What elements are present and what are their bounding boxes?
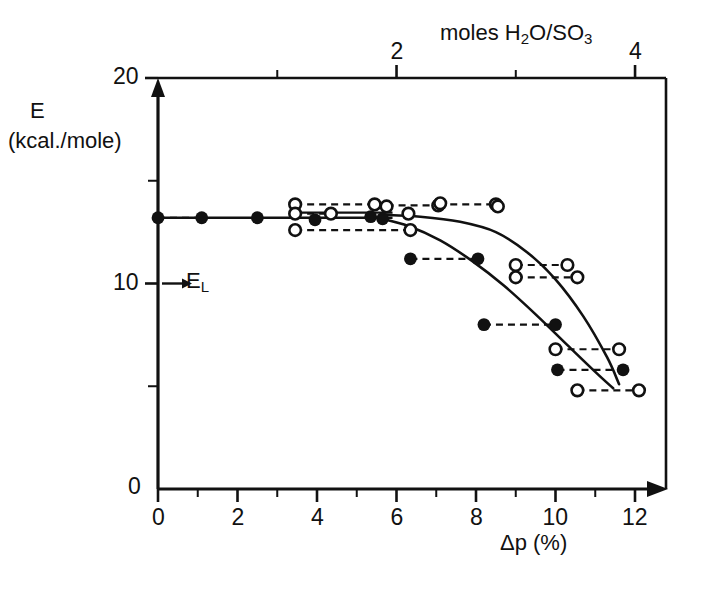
lower-curve [379,218,614,389]
data-point-filled-7 [472,252,485,265]
x-bottom-tick-label-2: 2 [232,506,245,529]
pair-link-lines [158,204,639,390]
axis-frame [151,78,668,497]
y-axis-label-e: E [30,100,45,122]
axis-ticks [145,65,708,502]
x-axis-bottom-label: Δp (%) [500,532,567,554]
x-top-tick-label-4: 4 [629,40,642,63]
data-point-open-9 [434,198,446,210]
data-point-filled-6 [404,252,417,265]
data-point-filled-10 [551,363,564,376]
data-point-open-4 [369,199,381,211]
trend-curves [379,215,619,389]
annotation-el-subscript: L [201,278,209,295]
annotation-el-letter: E [186,268,201,293]
x-bottom-tick-label-12: 12 [622,506,648,529]
x-axis-top-label-mid: O/SO [529,20,584,45]
data-point-open-18 [572,385,584,397]
open-circle-points [289,198,644,397]
data-point-open-11 [492,201,504,213]
y-tick-label-20: 20 [113,65,139,88]
x-axis-top-label-sub-3: 3 [584,30,592,47]
plot-canvas [0,0,708,591]
data-point-open-12 [510,259,522,271]
data-point-filled-1 [195,211,208,224]
x-bottom-tick-label-6: 6 [391,506,404,529]
data-point-filled-9 [549,318,562,331]
plateau-lines [158,213,393,218]
data-point-open-17 [613,343,625,355]
data-point-filled-11 [617,363,630,376]
figure-chart-energy-vs-dp: E (kcal./mole) Δp (%) moles H2O/SO3 EL 0… [0,0,708,591]
data-point-open-13 [510,272,522,284]
y-tick-label-0: 0 [128,475,141,498]
y-axis-arrowhead [151,78,165,97]
x-axis-top-label-sub-2: 2 [521,30,529,47]
annotation-el-label: EL [186,270,209,294]
x-bottom-tick-label-0: 0 [152,506,165,529]
data-point-open-3 [325,208,337,220]
y-axis-label-units: (kcal./mole) [8,130,122,152]
y-tick-label-10: 10 [113,271,139,294]
data-point-open-6 [403,208,415,220]
data-point-filled-2 [251,211,264,224]
data-point-open-2 [289,224,301,236]
data-point-open-1 [289,208,301,220]
x-bottom-tick-label-10: 10 [543,506,569,529]
data-point-filled-0 [152,211,165,224]
data-point-open-16 [550,343,562,355]
data-point-open-7 [405,224,417,236]
data-point-open-14 [562,259,574,271]
data-point-filled-3 [309,213,322,226]
data-point-filled-8 [478,318,491,331]
x-top-tick-label-2: 2 [391,40,404,63]
x-axis-top-label-prefix: moles H [440,20,521,45]
data-point-open-15 [572,272,584,284]
x-axis-top-label: moles H2O/SO3 [440,22,592,46]
data-point-open-19 [633,385,645,397]
x-bottom-tick-label-4: 4 [311,506,324,529]
data-point-filled-4 [364,210,377,223]
x-bottom-tick-label-8: 8 [470,506,483,529]
data-point-filled-5 [376,212,389,225]
data-point-open-5 [381,201,393,213]
